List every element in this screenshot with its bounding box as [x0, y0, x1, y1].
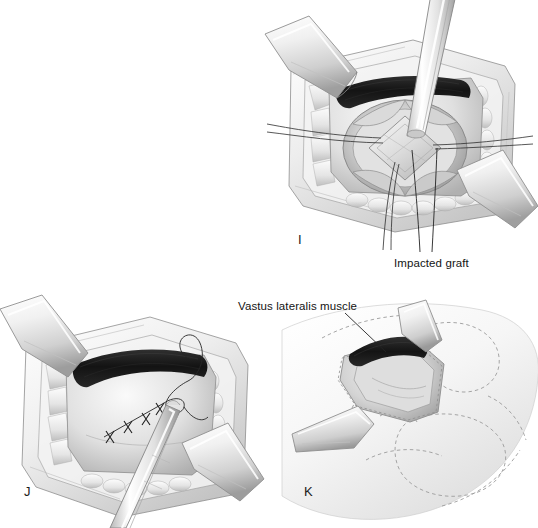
label-impacted-graft: Impacted graft: [394, 257, 469, 269]
panel-k-illustration: [292, 300, 538, 528]
label-vastus-lateralis-muscle: Vastus lateralis muscle: [238, 300, 357, 312]
panel-letter-j: J: [24, 484, 31, 499]
panel-j-illustration: [0, 295, 280, 528]
panel-i-illustration: [265, 0, 538, 250]
surgical-figure: Impacted graft Vastus lateralis muscle I…: [0, 0, 538, 528]
panel-letter-k: K: [304, 484, 313, 499]
panel-letter-i: I: [298, 232, 302, 247]
